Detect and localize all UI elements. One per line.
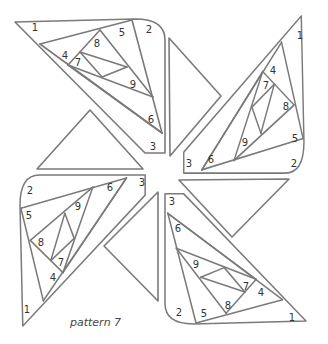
block-bottom-left xyxy=(20,175,145,326)
top-right-section-label: 3 xyxy=(186,158,192,169)
top-left-section-label: 8 xyxy=(94,38,100,49)
bottom-left-section-label: 4 xyxy=(50,272,56,283)
block-top-left xyxy=(15,19,165,153)
triangle-left-of-bottom-right xyxy=(104,192,158,301)
top-left-section-label: 1 xyxy=(32,22,38,33)
top-left-section-label: 7 xyxy=(75,57,81,68)
top-left-section-label: 5 xyxy=(119,27,125,38)
top-left-section-label: 9 xyxy=(130,79,136,90)
bottom-right-section-label: 3 xyxy=(169,196,175,207)
bottom-left-section-label: 9 xyxy=(75,201,81,212)
bottom-right-section-label: 7 xyxy=(243,281,249,292)
block-bottom-right xyxy=(165,194,306,324)
top-left-section-label: 2 xyxy=(146,24,152,35)
top-right-section-label: 5 xyxy=(292,133,298,144)
top-right-section-label: 6 xyxy=(208,154,214,165)
top-left-section-label: 6 xyxy=(148,114,154,125)
bottom-right-section-label: 9 xyxy=(193,259,199,270)
bottom-left-section-label: 5 xyxy=(26,210,32,221)
block-top-right xyxy=(184,16,304,173)
bottom-right-section-label: 5 xyxy=(201,308,207,319)
bottom-right-section-label: 6 xyxy=(175,223,181,234)
bottom-left-section-label: 7 xyxy=(58,257,64,268)
bottom-right-section-label: 8 xyxy=(225,300,231,311)
top-right-section-label: 7 xyxy=(263,80,269,91)
bottom-left-section-label: 1 xyxy=(24,304,30,315)
top-right-section-label: 2 xyxy=(291,158,297,169)
top-left-section-label: 4 xyxy=(62,50,68,61)
bottom-right-section-label: 1 xyxy=(289,312,295,323)
top-right-section-label: 1 xyxy=(297,30,303,41)
bottom-left-section-label: 3 xyxy=(139,177,145,188)
top-right-section-label: 4 xyxy=(270,65,276,76)
caption: pattern 7 xyxy=(69,316,121,329)
pattern-diagram: 123456789123456789123456789123456789 pat… xyxy=(0,0,328,344)
bottom-right-section-label: 2 xyxy=(176,307,182,318)
top-right-section-label: 8 xyxy=(283,101,289,112)
triangle-under-top-left xyxy=(37,110,143,169)
top-left-section-label: 3 xyxy=(150,141,156,152)
bottom-left-section-label: 2 xyxy=(27,185,33,196)
triangle-under-top-right xyxy=(179,179,289,237)
bottom-left-section-label: 6 xyxy=(107,182,113,193)
top-right-section-label: 9 xyxy=(242,137,248,148)
bottom-right-section-label: 4 xyxy=(258,287,264,298)
bottom-left-section-label: 8 xyxy=(38,237,44,248)
